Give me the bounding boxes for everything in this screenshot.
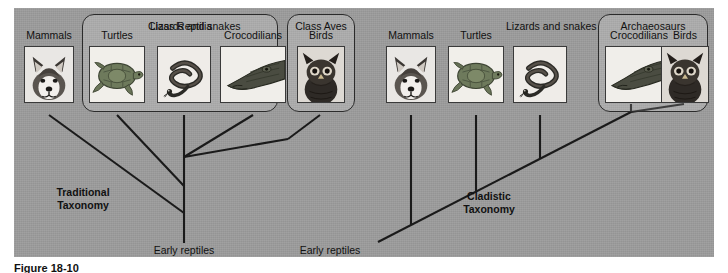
taxon-birds-traditional: Birds [289, 30, 353, 115]
turtle-photo [89, 46, 145, 103]
taxon-label-mammals: Mammals [379, 30, 443, 42]
taxon-label-mammals: Mammals [17, 30, 81, 42]
taxon-label-turtles: Turtles [85, 30, 149, 42]
taxon-birds-cladistic: Birds [660, 30, 710, 115]
taxon-crocodilians-traditional: Crocodilians [215, 30, 291, 115]
figure-root: Class Reptilia Class Aves Mammals [0, 0, 728, 273]
crocodile-photo [605, 46, 667, 103]
left-branch-birds [288, 115, 320, 139]
bird-photo [297, 46, 345, 103]
left-branch-turtles [117, 115, 184, 186]
right-root-label: Early reptiles [280, 244, 380, 256]
taxon-turtles-traditional: Turtles [85, 30, 149, 115]
left-tree-caption: Traditional Taxonomy [31, 186, 135, 211]
taxon-label-crocodilians: Crocodilians [215, 30, 291, 42]
taxon-mammals-cladistic: Mammals [379, 30, 443, 115]
right-backbone [378, 112, 631, 242]
taxon-label-lizards-and-snakes: Lizards and snakes [506, 21, 574, 33]
right-tree-caption: Cladistic Taxonomy [437, 190, 541, 215]
figure-caption: Figure 18-10 [14, 262, 79, 273]
bird-photo [661, 46, 709, 103]
snake-photo [157, 46, 211, 103]
taxon-lizards-and-snakes-cladistic: Lizards and snakes [506, 21, 574, 115]
crocodile-photo [220, 46, 286, 103]
mammal-photo [386, 46, 436, 103]
taxon-label-birds: Birds [289, 30, 353, 42]
taxon-lizards-and-snakes-traditional: Lizards and snakes [150, 21, 218, 115]
mammal-photo [24, 46, 74, 103]
taxon-mammals-traditional: Mammals [17, 30, 81, 115]
taxon-label-birds: Birds [660, 30, 710, 42]
turtle-photo [448, 46, 504, 103]
left-root-label: Early reptiles [134, 244, 234, 256]
taxon-turtles-cladistic: Turtles [444, 30, 508, 115]
snake-photo [513, 46, 567, 103]
taxon-label-lizards-and-snakes: Lizards and snakes [150, 21, 218, 33]
taxon-label-turtles: Turtles [444, 30, 508, 42]
